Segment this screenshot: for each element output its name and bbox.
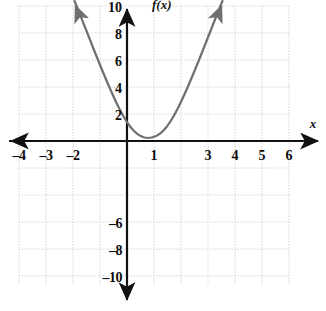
- x-tick-label: –4: [12, 148, 27, 163]
- x-tick-labels: –4 –3 –2 1 3 4 5 6: [12, 148, 293, 163]
- graph-figure: x f(x) –4 –3 –2 1 3 4 5 6 10 8 6 4 2 –6 …: [0, 0, 326, 311]
- x-axis-label: x: [309, 116, 317, 131]
- x-tick-label: –3: [39, 148, 54, 163]
- x-tick-label: –2: [66, 148, 81, 163]
- y-tick-label: –6: [108, 216, 123, 231]
- y-tick-label: 10: [108, 0, 122, 15]
- y-tick-label: 2: [115, 108, 122, 123]
- y-tick-label: 4: [115, 81, 122, 96]
- x-tick-label: 4: [232, 148, 239, 163]
- x-tick-label: 5: [259, 148, 266, 163]
- x-tick-label: 1: [151, 148, 158, 163]
- y-axis-label: f(x): [152, 0, 172, 12]
- y-tick-label: 6: [115, 54, 122, 69]
- y-tick-labels: 10 8 6 4 2 –6 –8 –10: [102, 0, 123, 285]
- x-tick-label: 6: [286, 148, 293, 163]
- y-tick-label: –8: [108, 243, 123, 258]
- y-tick-label: –10: [102, 270, 123, 285]
- parabola-curve: [75, 1, 223, 138]
- y-tick-label: 8: [115, 27, 122, 42]
- grid-lines: [19, 6, 289, 286]
- x-tick-label: 3: [205, 148, 212, 163]
- coordinate-plane: x f(x) –4 –3 –2 1 3 4 5 6 10 8 6 4 2 –6 …: [0, 0, 326, 311]
